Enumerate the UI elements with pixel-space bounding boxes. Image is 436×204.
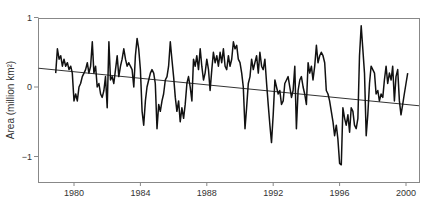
- x-axis-ticks: 198019841988199219962000: [64, 183, 416, 199]
- x-tick-label: 1980: [64, 188, 84, 198]
- x-tick-label: 1992: [263, 188, 283, 198]
- y-tick-label: 0: [27, 82, 32, 92]
- y-axis-label: Area (million km²): [5, 61, 16, 139]
- y-axis-ticks: 10−1: [22, 13, 39, 162]
- x-tick-label: 1996: [330, 188, 350, 198]
- y-tick-label: −1: [22, 152, 32, 162]
- x-tick-label: 1988: [197, 188, 217, 198]
- x-tick-label: 1984: [130, 188, 150, 198]
- x-tick-label: 2000: [396, 188, 416, 198]
- data-series-line: [56, 26, 408, 165]
- y-tick-label: 1: [27, 13, 32, 23]
- sea-ice-area-chart: 10−1 198019841988199219962000 Area (mill…: [0, 0, 436, 204]
